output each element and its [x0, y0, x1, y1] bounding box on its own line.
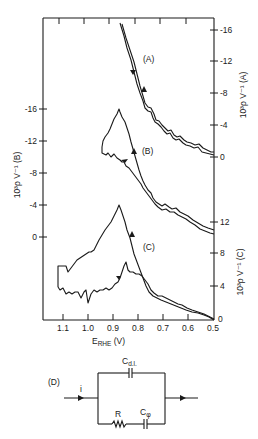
- x-tick-0.8: 0.8: [132, 323, 144, 333]
- plot-frame: [43, 18, 214, 320]
- curve-b-label: (B): [142, 146, 154, 156]
- curve-b: [102, 109, 214, 234]
- right-axis-a-tick-labels: -16 -12 -8 -4 0: [220, 25, 233, 162]
- curve-a-label: (A): [143, 54, 155, 64]
- svg-text:-4: -4: [220, 120, 228, 130]
- svg-text:-12: -12: [220, 56, 233, 66]
- x-tick-0.7: 0.7: [157, 323, 169, 333]
- x-tick-0.9: 0.9: [107, 323, 119, 333]
- svg-text:-16: -16: [25, 104, 38, 114]
- figure: 1.1 1.0 0.9 0.8 0.7 0.6 0.5 ERHE (V) -16…: [0, 0, 258, 439]
- right-axis-c-label: 10³ρ V⁻¹ (C): [235, 248, 245, 295]
- x-axis-label: ERHE (V): [92, 336, 125, 347]
- right-axis-a-label: 10³ρ V⁻¹ (A): [238, 72, 248, 119]
- curve-a: [120, 23, 214, 155]
- svg-text:0: 0: [220, 152, 225, 162]
- panel-label-d: (D): [48, 377, 60, 387]
- cap-phi-label: Cφ: [140, 407, 151, 419]
- output-arrow-icon: [180, 395, 186, 401]
- input-arrow-icon: [78, 395, 84, 401]
- svg-text:-12: -12: [25, 136, 38, 146]
- top-axis-ticks: [59, 18, 186, 24]
- curve-c-label: (C): [143, 242, 155, 252]
- svg-text:8: 8: [220, 248, 225, 258]
- svg-text:4: 4: [220, 281, 225, 291]
- svg-text:0: 0: [32, 232, 37, 242]
- svg-text:0: 0: [218, 314, 223, 324]
- right-axis-c-tick-labels: 12 8 4 0: [218, 217, 230, 324]
- x-axis-tick-labels: 1.1 1.0 0.9 0.8 0.7 0.6 0.5: [57, 323, 219, 333]
- resistor-label: R: [115, 409, 121, 419]
- x-tick-1.1: 1.1: [57, 323, 69, 333]
- x-tick-0.6: 0.6: [182, 323, 194, 333]
- x-tick-1.0: 1.0: [82, 323, 94, 333]
- x-tick-0.5: 0.5: [207, 323, 219, 333]
- svg-text:-8: -8: [220, 88, 228, 98]
- svg-text:-8: -8: [29, 168, 37, 178]
- left-axis-b-tick-labels: -16 -12 -8 -4 0: [25, 104, 38, 242]
- cap-dl-label: Cd.l.: [122, 356, 137, 367]
- svg-text:-16: -16: [220, 25, 233, 35]
- current-label: i: [80, 384, 82, 394]
- left-axis-b-label: 10³ρ V⁻¹ (B): [12, 152, 22, 199]
- x-axis-ticks: [63, 314, 188, 320]
- svg-text:-4: -4: [29, 200, 37, 210]
- svg-text:12: 12: [220, 217, 230, 227]
- circuit-diagram: [64, 368, 198, 429]
